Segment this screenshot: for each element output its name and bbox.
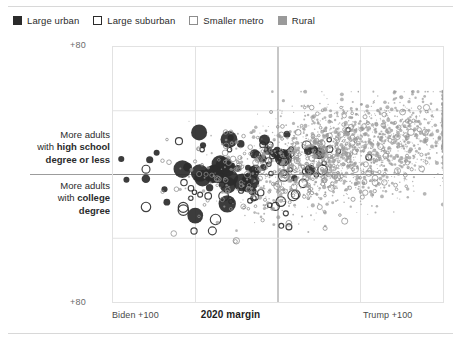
legend-item-large-urban: Large urban <box>13 15 79 26</box>
y-axis-tick-top: +80 <box>70 40 86 50</box>
legend-label-smaller-metro: Smaller metro <box>203 15 263 26</box>
ylab-lower-line3-bold: degree <box>79 205 110 216</box>
x-axis-label-right: Trump +100 <box>363 310 412 320</box>
legend-swatch-open-square-icon <box>93 16 102 25</box>
scatter-points-canvas <box>113 47 443 302</box>
legend-swatch-open-light-square-icon <box>189 16 198 25</box>
ylab-upper-line3-bold: degree or less <box>46 154 110 165</box>
ylab-upper-line2-bold: high school <box>57 141 110 152</box>
top-divider <box>8 6 453 7</box>
legend-label-rural: Rural <box>292 15 315 26</box>
center-axis-extension <box>30 174 112 175</box>
ylab-lower-line2-prefix: with <box>58 192 78 203</box>
ylab-upper-line1: More adults <box>60 129 110 140</box>
legend-label-large-suburban: Large suburban <box>107 15 175 26</box>
ylab-upper-line2-prefix: with <box>37 141 57 152</box>
ylab-lower-line1: More adults <box>60 180 110 191</box>
legend-item-large-suburban: Large suburban <box>93 15 175 26</box>
ylab-lower-line2-bold: college <box>77 192 110 203</box>
legend-swatch-filled-square-icon <box>13 16 22 25</box>
legend-item-rural: Rural <box>278 15 315 26</box>
legend-item-smaller-metro: Smaller metro <box>189 15 263 26</box>
scatter-plot-area <box>112 46 444 303</box>
legend-label-large-urban: Large urban <box>27 15 79 26</box>
chart-legend: Large urban Large suburban Smaller metro… <box>13 15 315 26</box>
y-axis-annotation-upper: More adults with high school degree or l… <box>24 129 110 166</box>
y-axis-annotation-lower: More adults with college degree <box>24 180 110 217</box>
legend-swatch-gray-square-icon <box>278 16 287 25</box>
y-axis-tick-bottom: +80 <box>70 297 86 307</box>
bottom-divider <box>8 333 453 334</box>
